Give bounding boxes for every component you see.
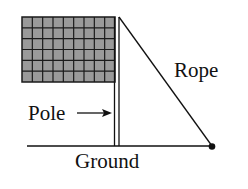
pole-label: Pole [28,101,65,125]
flagpole-diagram: Rope Pole Ground [0,0,248,189]
flag [22,17,115,82]
rope-label: Rope [174,58,218,82]
ground-label: Ground [75,149,140,173]
pole-arrow-icon [77,109,112,117]
rope-anchor-dot [209,143,216,150]
